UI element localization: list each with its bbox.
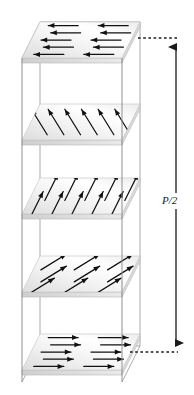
figure-canvas: P/2 <box>0 0 194 395</box>
pitch-label: P/2 <box>161 194 178 206</box>
pitch-dimension-group: P/2 <box>130 38 178 352</box>
director-plate <box>22 22 140 63</box>
plate-front-thickness <box>22 140 122 145</box>
plate-front-thickness <box>22 214 122 219</box>
plate-front-thickness <box>22 370 122 375</box>
plate-front-thickness <box>22 58 122 63</box>
plate-front-thickness <box>22 292 122 297</box>
liquid-crystal-helix-diagram: P/2 <box>0 0 194 395</box>
